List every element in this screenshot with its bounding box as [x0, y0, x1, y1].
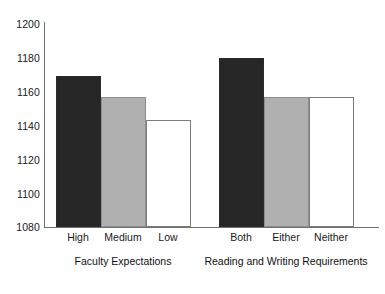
category-label-both: Both	[230, 232, 252, 243]
bar-low	[146, 120, 191, 227]
category-label-neither: Neither	[314, 232, 348, 243]
y-tick-1200: 1200	[16, 19, 40, 30]
category-label-low: Low	[158, 232, 177, 243]
y-tick-1120: 1120	[17, 155, 40, 166]
bar-high	[56, 76, 101, 227]
y-tick-1140: 1140	[17, 121, 40, 132]
y-tick-1100: 1100	[17, 189, 40, 200]
category-label-either: Either	[272, 232, 299, 243]
group-label-faculty-expectations: Faculty Expectations	[75, 256, 172, 267]
y-tick-1080: 1080	[16, 222, 40, 233]
bar-both	[219, 58, 264, 227]
bars-layer	[44, 24, 378, 227]
bar-medium	[101, 97, 146, 227]
category-label-high: High	[67, 232, 89, 243]
bar-either	[264, 97, 309, 227]
x-axis-line	[44, 227, 379, 228]
y-tick-1160: 1160	[17, 87, 40, 98]
cropped-caption-text	[18, 285, 370, 294]
bar-chart-figure: 1200 1180 1160 1140 1120 1100 1080 High …	[0, 0, 385, 294]
y-tick-1180: 1180	[17, 53, 40, 64]
category-label-medium: Medium	[104, 232, 141, 243]
group-label-reading-writing: Reading and Writing Requirements	[204, 256, 367, 267]
y-axis-tick-labels: 1200 1180 1160 1140 1120 1100 1080	[0, 0, 40, 294]
bar-neither	[309, 97, 354, 227]
